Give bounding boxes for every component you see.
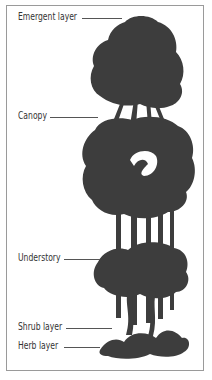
label-canopy: Canopy [18,110,47,121]
label-shrub-layer: Shrub layer [18,321,62,332]
label-understory: Understory [18,252,60,263]
label-herb-layer: Herb layer [18,340,58,351]
leader-line-emergent [82,18,122,19]
label-emergent-layer: Emergent layer [18,11,77,22]
leader-line-canopy [50,117,98,118]
leader-line-shrub [66,328,112,329]
leader-line-understory [64,259,100,260]
leader-line-herb [64,347,100,348]
